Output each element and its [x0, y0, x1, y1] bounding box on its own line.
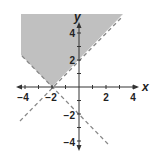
- x-tick-label-neg2: −2: [45, 92, 57, 103]
- x-tick-label-2: 2: [103, 92, 109, 103]
- y-tick-label-2: 2: [69, 55, 75, 66]
- x-tick-label-neg4: −4: [17, 92, 29, 103]
- x-axis-arrow-right: [133, 85, 139, 90]
- x-axis-label: x: [141, 80, 150, 94]
- x-tick-label-4: 4: [130, 92, 136, 103]
- y-tick-label-neg2: −2: [64, 110, 76, 121]
- y-tick-label-neg4: −4: [64, 137, 76, 148]
- y-axis-arrow-down: [77, 145, 82, 151]
- x-axis-arrow-left: [16, 85, 22, 90]
- y-axis-label: y: [73, 10, 82, 24]
- shaded-region: [21, 14, 123, 87]
- inequality-graph: −4 −2 2 4 4 2 −2 −4 x y: [0, 0, 155, 156]
- y-tick-label-4: 4: [69, 28, 75, 39]
